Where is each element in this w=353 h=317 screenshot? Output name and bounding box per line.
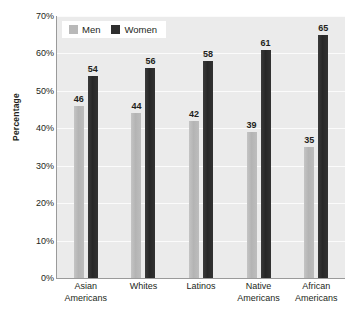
x-axis-label: Latinos [186, 281, 215, 293]
bar-group: 3565 [304, 16, 328, 278]
y-axis-tick-labels: 0%10%20%30%40%50%60%70% [16, 16, 54, 278]
x-axis-label: AsianAmericans [65, 281, 108, 304]
bar-men: 46 [74, 106, 84, 278]
y-axis-tick-label: 40% [16, 123, 54, 133]
legend-label: Women [124, 24, 157, 35]
y-axis-tick-label: 60% [16, 48, 54, 58]
bar-group: 4654 [74, 16, 98, 278]
bar-group: 4258 [189, 16, 213, 278]
x-axis-category-labels: AsianAmericansWhitesLatinosNativeAmerica… [57, 281, 345, 315]
bar-value-label: 44 [131, 101, 141, 111]
bar-value-label: 56 [145, 56, 155, 66]
bar-men: 44 [131, 113, 141, 278]
bar-women: 54 [88, 76, 98, 278]
bar-value-label: 54 [88, 64, 98, 74]
y-axis-tick-label: 30% [16, 161, 54, 171]
x-axis-label: AfricanAmericans [295, 281, 338, 304]
bar-value-label: 42 [189, 109, 199, 119]
bar-women: 58 [203, 61, 213, 278]
x-axis-label: Whites [130, 281, 158, 293]
bar-value-label: 58 [203, 49, 213, 59]
y-axis-tick-label: 50% [16, 86, 54, 96]
bar-men: 39 [247, 132, 257, 278]
bar-value-label: 61 [261, 38, 271, 48]
bar-chart: Percentage 0%10%20%30%40%50%60%70% 46544… [0, 0, 353, 317]
legend-swatch-men [69, 25, 78, 34]
legend-item-women: Women [111, 24, 157, 35]
bar-men: 35 [304, 147, 314, 278]
bar-group: 3961 [247, 16, 271, 278]
y-axis-tick-label: 70% [16, 11, 54, 21]
y-axis-tick-label: 0% [16, 273, 54, 283]
bar-women: 56 [145, 68, 155, 278]
y-axis-tick-label: 20% [16, 198, 54, 208]
bar-group: 4456 [131, 16, 155, 278]
bar-men: 42 [189, 121, 199, 278]
bar-value-label: 46 [74, 94, 84, 104]
bar-value-label: 39 [247, 120, 257, 130]
bar-value-label: 35 [304, 135, 314, 145]
bar-value-label: 65 [318, 23, 328, 33]
chart-legend: MenWomen [62, 21, 166, 38]
bar-women: 61 [261, 50, 271, 278]
bars-layer: 46544456425839613565 [57, 16, 345, 278]
legend-swatch-women [111, 25, 120, 34]
y-axis-tick-label: 10% [16, 236, 54, 246]
legend-label: Men [82, 24, 100, 35]
x-axis-label: NativeAmericans [237, 281, 280, 304]
x-axis-line [57, 278, 345, 279]
legend-item-men: Men [69, 24, 100, 35]
bar-women: 65 [318, 35, 328, 278]
